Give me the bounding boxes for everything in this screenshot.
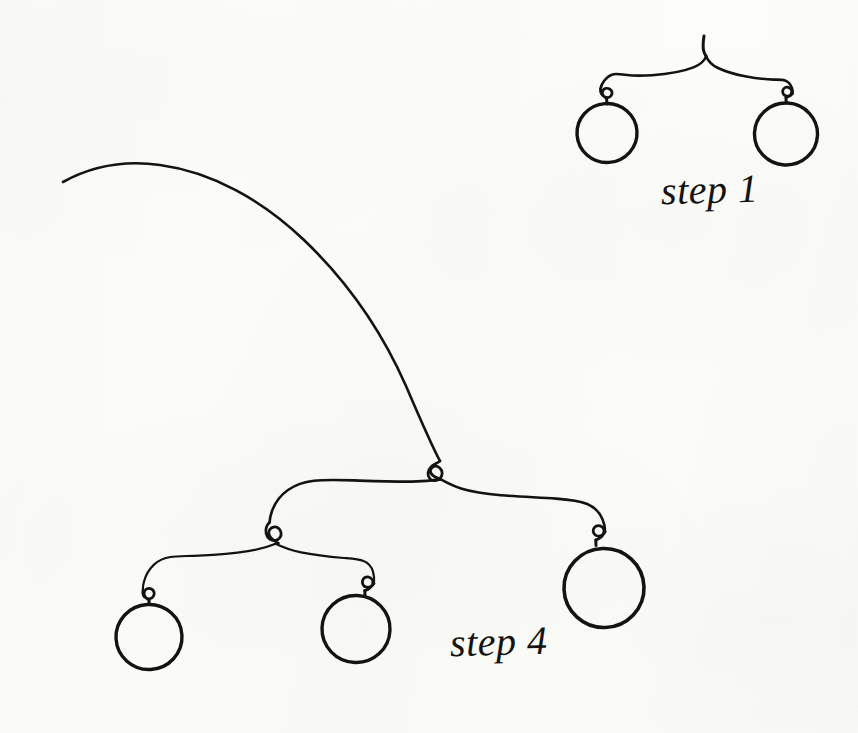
- figure-step1: [575, 36, 819, 167]
- step4-bottom-middle-ring: [321, 594, 391, 663]
- mobile-sketch-drawing: [0, 0, 858, 733]
- step1-right-ring: [753, 101, 819, 166]
- step4-hanging-arc: [63, 163, 440, 461]
- step1-balance-bar-right: [706, 56, 792, 93]
- step4-bottom-middle-hook: [362, 577, 374, 591]
- step4-sub-bar-left: [143, 544, 276, 591]
- step4-main-bar-left: [270, 479, 441, 522]
- caption-step-4: step 4: [449, 617, 548, 667]
- step4-main-pivot-hook: [428, 461, 442, 481]
- step1-right-hook: [783, 87, 793, 97]
- step4-sub-pivot-hook: [266, 522, 281, 543]
- step1-left-ring: [575, 101, 639, 164]
- step4-sub-bar-right: [276, 544, 375, 584]
- figure-step4: [63, 163, 645, 671]
- step4-bottom-left-ring: [114, 603, 183, 671]
- step1-left-hook: [600, 88, 612, 98]
- step4-right-large-hook: [593, 526, 605, 540]
- step4-main-bar-right: [441, 479, 605, 532]
- step4-right-large-ring: [563, 547, 646, 629]
- step1-balance-bar-left: [601, 56, 707, 89]
- sketch-page: step 1 step 4: [0, 0, 858, 733]
- step4-bottom-left-hook: [143, 588, 154, 599]
- step1-suspension-stub: [703, 36, 706, 56]
- caption-step-1: step 1: [660, 165, 759, 215]
